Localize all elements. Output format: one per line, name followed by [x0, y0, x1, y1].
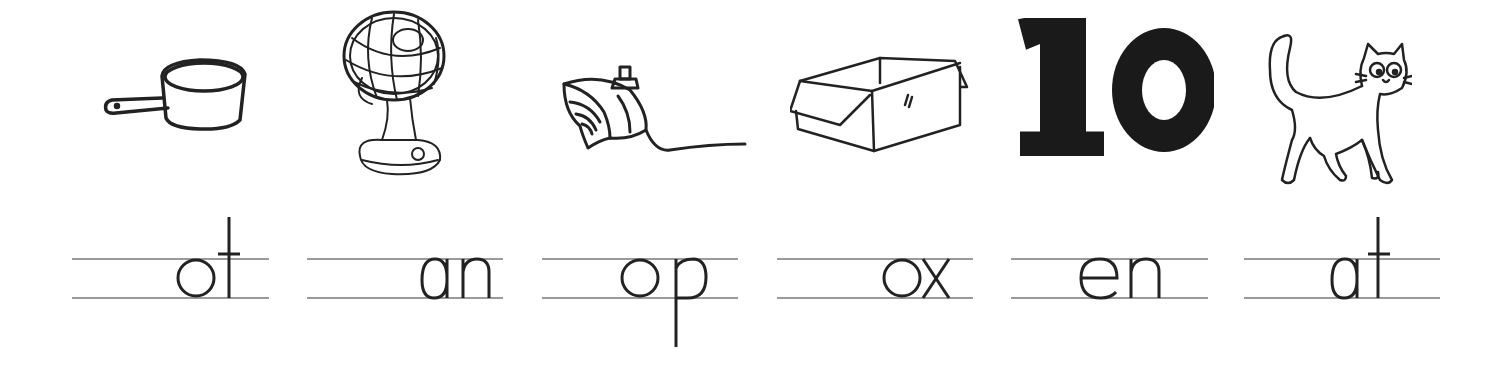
letters-en-glyphs — [1011, 200, 1208, 360]
number-10-icon — [1014, 18, 1214, 168]
shown-letters — [542, 200, 738, 360]
letters-op-glyphs — [542, 200, 738, 360]
letters-at-glyphs — [1244, 200, 1440, 360]
number-ten-picture — [1014, 18, 1214, 168]
fan-icon — [332, 8, 452, 178]
box-icon — [790, 55, 970, 155]
saucepan-icon — [100, 50, 270, 135]
shown-letters — [777, 200, 973, 360]
writing-line-fan[interactable] — [307, 200, 503, 360]
cat-icon — [1262, 30, 1412, 190]
letters-ot-glyphs — [72, 200, 269, 360]
shown-letters — [1244, 200, 1440, 360]
shown-letters — [1011, 200, 1208, 360]
cat-picture — [1262, 30, 1412, 190]
shown-letters — [307, 200, 503, 360]
writing-line-ten[interactable] — [1011, 200, 1208, 360]
writing-line-pot[interactable] — [72, 200, 269, 360]
writing-line-cat[interactable] — [1244, 200, 1440, 360]
box-picture — [790, 55, 970, 155]
spinning-top-icon — [560, 62, 750, 162]
shown-letters — [72, 200, 269, 360]
letters-ox-glyphs — [777, 200, 973, 360]
writing-line-box[interactable] — [777, 200, 973, 360]
saucepan-picture — [100, 50, 270, 135]
fan-picture — [332, 8, 452, 178]
spinning-top-picture — [560, 62, 750, 162]
letters-an-glyphs — [307, 200, 503, 360]
writing-line-top[interactable] — [542, 200, 738, 360]
